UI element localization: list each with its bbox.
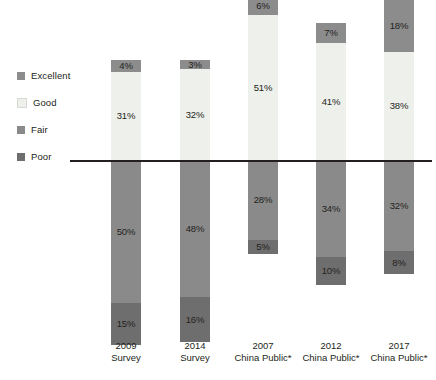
bar-segment-fair[interactable]: 32% [384,160,414,251]
x-axis-category-label-line: China Public* [349,352,436,364]
bar-group: 6%51%28%5% [234,0,292,380]
bar-negative-stack[interactable]: 48%16% [180,160,210,342]
bar-segment-value-label: 15% [117,319,136,329]
bar-segment-value-label: 51% [254,83,273,93]
bar-segment-value-label: 41% [322,97,341,107]
bar-segment-value-label: 28% [254,195,273,205]
bar-segment-good[interactable]: 32% [180,69,210,160]
zero-baseline-axis [70,160,432,162]
stacked-bar-chart: ExcellentGoodFairPoor 4%31%50%15%2009Sur… [0,0,436,380]
bar-segment-good[interactable]: 51% [248,15,278,160]
bar-segment-value-label: 6% [256,1,270,11]
bar-segment-value-label: 18% [390,21,409,31]
bar-segment-fair[interactable]: 50% [111,160,141,303]
bar-positive-stack[interactable]: 18%38% [384,0,414,160]
bar-segment-poor[interactable]: 5% [248,240,278,254]
bar-segment-value-label: 48% [186,224,205,234]
bar-segment-excellent[interactable]: 7% [316,23,346,43]
bar-segment-value-label: 34% [322,204,341,214]
bar-segment-poor[interactable]: 10% [316,257,346,286]
bar-negative-stack[interactable]: 32%8% [384,160,414,274]
bar-segment-excellent[interactable]: 6% [248,0,278,15]
bar-positive-stack[interactable]: 3%32% [180,60,210,160]
bar-segment-fair[interactable]: 34% [316,160,346,257]
bar-positive-stack[interactable]: 7%41% [316,23,346,160]
bar-segment-value-label: 16% [186,315,205,325]
bar-group: 3%32%48%16% [166,0,224,380]
bar-segment-value-label: 32% [186,110,205,120]
bar-segment-value-label: 32% [390,201,409,211]
bar-positive-stack[interactable]: 4%31% [111,60,141,160]
bar-segment-value-label: 8% [392,258,406,268]
bar-segment-value-label: 38% [390,101,409,111]
bar-segment-good[interactable]: 38% [384,52,414,160]
bar-negative-stack[interactable]: 34%10% [316,160,346,285]
bar-segment-fair[interactable]: 28% [248,160,278,240]
bar-segment-poor[interactable]: 16% [180,297,210,343]
bar-segment-value-label: 31% [117,111,136,121]
x-axis-category-label: 2017China Public* [349,340,436,363]
bar-segment-value-label: 50% [117,227,136,237]
bar-segment-poor[interactable]: 15% [111,303,141,346]
bar-segment-good[interactable]: 41% [316,43,346,160]
plot-area: 4%31%50%15%2009Survey3%32%48%16%2014Surv… [0,0,436,380]
bar-group: 18%38%32%8% [370,0,428,380]
bar-segment-excellent[interactable]: 18% [384,0,414,51]
bar-segment-value-label: 7% [324,28,338,38]
bar-segment-excellent[interactable]: 3% [180,60,210,69]
x-axis-category-label-line: 2017 [349,340,436,352]
bar-segment-value-label: 10% [322,266,341,276]
bar-negative-stack[interactable]: 28%5% [248,160,278,254]
bar-group: 7%41%34%10% [302,0,360,380]
bar-negative-stack[interactable]: 50%15% [111,160,141,345]
bar-group: 4%31%50%15% [97,0,155,380]
bar-segment-fair[interactable]: 48% [180,160,210,297]
bar-positive-stack[interactable]: 6%51% [248,0,278,160]
bar-segment-good[interactable]: 31% [111,72,141,160]
bar-segment-poor[interactable]: 8% [384,251,414,274]
bar-segment-excellent[interactable]: 4% [111,60,141,71]
bar-segment-value-label: 4% [119,61,133,71]
bar-segment-value-label: 5% [256,242,270,252]
